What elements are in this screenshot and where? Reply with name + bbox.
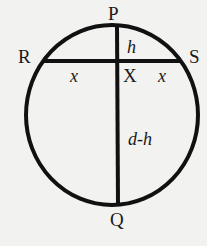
label-h: h (127, 37, 136, 57)
label-x-intersection: X (123, 65, 137, 86)
label-s: S (189, 46, 200, 67)
diameter-pq (117, 25, 118, 205)
label-q: Q (110, 209, 124, 230)
label-x-right: x (157, 66, 166, 86)
circle-chord-diagram: P R S X Q h x x d-h (0, 0, 207, 246)
label-x-left: x (69, 66, 78, 86)
label-d-minus-h: d-h (128, 129, 152, 149)
background (0, 0, 207, 246)
label-p: P (108, 3, 119, 24)
label-r: R (18, 46, 31, 67)
